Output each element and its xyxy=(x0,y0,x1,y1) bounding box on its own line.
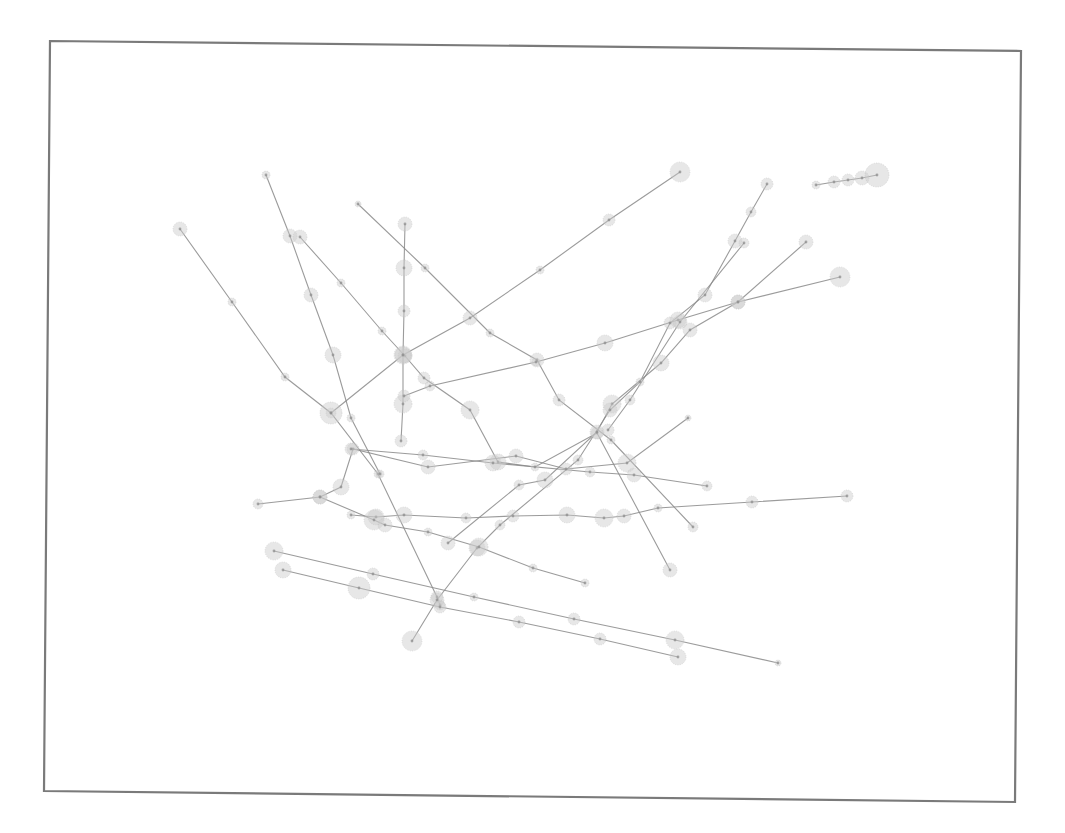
node-center-dot-icon xyxy=(589,471,592,474)
trajectory-node xyxy=(421,460,435,474)
trajectory-node xyxy=(173,222,187,236)
trajectory-node xyxy=(253,499,263,509)
node-center-dot-icon xyxy=(282,569,285,572)
trajectory-node xyxy=(228,298,236,306)
node-center-dot-icon xyxy=(750,211,753,214)
trajectory-node xyxy=(590,425,604,439)
node-center-dot-icon xyxy=(478,546,481,549)
trajectory-node xyxy=(293,230,307,244)
node-center-dot-icon xyxy=(284,376,287,379)
node-center-dot-icon xyxy=(766,183,769,186)
trajectory-node xyxy=(685,415,691,421)
trajectory-node xyxy=(485,455,501,471)
node-center-dot-icon xyxy=(861,177,864,180)
node-center-dot-icon xyxy=(674,639,677,642)
trajectory-node xyxy=(378,327,386,335)
node-center-dot-icon xyxy=(743,242,746,245)
node-center-dot-icon xyxy=(427,466,430,469)
trajectory-node xyxy=(532,358,540,366)
trajectory-line-t4 xyxy=(358,204,693,527)
node-center-dot-icon xyxy=(539,269,542,272)
trajectory-line-t17 xyxy=(283,570,678,657)
node-center-dot-icon xyxy=(465,517,468,520)
node-center-dot-icon xyxy=(604,342,607,345)
node-center-dot-icon xyxy=(534,466,537,469)
node-center-dot-icon xyxy=(669,569,672,572)
trajectory-node xyxy=(395,347,411,363)
trajectory-node xyxy=(513,616,525,628)
trajectory-node xyxy=(585,467,595,477)
node-center-dot-icon xyxy=(573,618,576,621)
node-center-dot-icon xyxy=(492,462,495,465)
trajectory-node xyxy=(396,507,412,523)
trajectory-line-t13 xyxy=(351,449,707,486)
node-center-dot-icon xyxy=(734,240,737,243)
trajectory-node xyxy=(673,315,687,329)
node-center-dot-icon xyxy=(499,524,502,527)
node-center-dot-icon xyxy=(469,317,472,320)
node-center-dot-icon xyxy=(350,448,353,451)
node-center-dot-icon xyxy=(330,412,333,415)
node-center-dot-icon xyxy=(424,267,427,270)
node-center-dot-icon xyxy=(689,329,692,332)
trajectory-node xyxy=(828,176,840,188)
node-center-dot-icon xyxy=(489,332,492,335)
trajectory-line-t7 xyxy=(404,277,840,396)
node-center-dot-icon xyxy=(403,310,406,313)
trajectory-node xyxy=(355,201,361,207)
trajectory-node xyxy=(348,577,370,599)
node-center-dot-icon xyxy=(402,403,405,406)
node-center-dot-icon xyxy=(310,294,313,297)
node-center-dot-icon xyxy=(704,294,707,297)
trajectory-node xyxy=(688,522,698,532)
trajectory-node xyxy=(507,510,519,522)
trajectory-node xyxy=(636,378,644,386)
trajectory-node xyxy=(347,511,355,519)
trajectory-node xyxy=(425,381,435,391)
node-center-dot-icon xyxy=(599,638,602,641)
node-center-dot-icon xyxy=(629,399,632,402)
trajectory-node xyxy=(402,631,422,651)
trajectory-node xyxy=(663,563,677,577)
trajectory-node xyxy=(799,235,813,249)
node-center-dot-icon xyxy=(608,219,611,222)
node-center-dot-icon xyxy=(687,417,690,420)
trajectory-node xyxy=(573,455,583,465)
trajectory-node xyxy=(617,509,631,523)
trajectory-node xyxy=(275,562,291,578)
trajectory-node xyxy=(830,267,850,287)
trajectory-node xyxy=(333,479,349,495)
node-center-dot-icon xyxy=(340,282,343,285)
trajectory-node xyxy=(595,509,613,527)
trajectory-node xyxy=(424,528,432,536)
trajectory-node xyxy=(568,613,580,625)
trajectory-node xyxy=(320,402,342,424)
node-center-dot-icon xyxy=(596,431,599,434)
trajectory-node xyxy=(461,513,471,523)
trajectory-node xyxy=(470,593,478,601)
trajectory-node xyxy=(434,601,446,613)
node-center-dot-icon xyxy=(518,621,521,624)
trajectory-node xyxy=(842,174,854,186)
trajectory-node xyxy=(597,335,613,351)
trajectory-node xyxy=(739,238,749,248)
node-center-dot-icon xyxy=(737,301,740,304)
trajectory-node xyxy=(603,214,615,226)
node-center-dot-icon xyxy=(577,459,580,462)
trajectory-node xyxy=(666,631,684,649)
trajectory-node xyxy=(514,480,524,490)
node-center-dot-icon xyxy=(515,455,518,458)
trajectory-node xyxy=(367,568,379,580)
node-center-dot-icon xyxy=(669,322,672,325)
trajectory-lines xyxy=(180,172,877,663)
node-center-dot-icon xyxy=(299,236,302,239)
trajectory-node xyxy=(537,472,553,488)
trajectory-node xyxy=(594,633,606,645)
trajectory-node xyxy=(398,217,412,231)
node-center-dot-icon xyxy=(610,439,613,442)
node-center-dot-icon xyxy=(373,519,376,522)
trajectory-node xyxy=(418,450,428,460)
node-center-dot-icon xyxy=(384,524,387,527)
node-center-dot-icon xyxy=(381,330,384,333)
node-center-dot-icon xyxy=(403,514,406,517)
